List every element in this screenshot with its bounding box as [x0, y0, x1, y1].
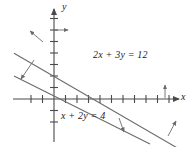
linear-system-graph: 2x + 3y = 12 x + 2y = 4 y x [0, 0, 195, 147]
pointer-bottom-right-up-icon [168, 121, 176, 136]
pointer-lower-left-icon [21, 60, 34, 79]
y-axis-label: y [62, 1, 66, 12]
equation-label-1: 2x + 3y = 12 [93, 49, 148, 60]
line-2x-3y-12 [14, 53, 191, 147]
pointer-upper-left-icon [30, 31, 43, 42]
equation-label-2: x + 2y = 4 [61, 110, 105, 121]
x-axis-label: x [181, 91, 185, 102]
graph-canvas [0, 0, 195, 147]
